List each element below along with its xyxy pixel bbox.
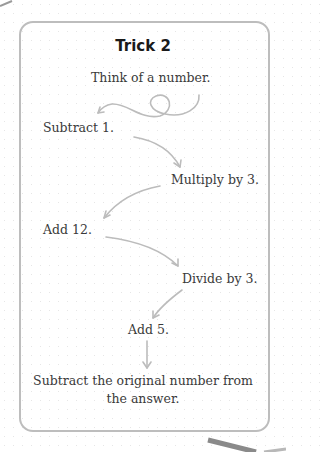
step-subtract-original-line2: the answer. (0, 391, 286, 406)
step-add-five: Add 5. (128, 322, 169, 337)
step-subtract-one: Subtract 1. (43, 120, 114, 135)
step-think-number: Think of a number. (91, 70, 210, 85)
step-add-twelve: Add 12. (43, 222, 92, 237)
card-title: Trick 2 (0, 37, 286, 55)
next-arrow-icon (208, 440, 256, 452)
step-multiply-three: Multiply by 3. (171, 172, 259, 187)
step-subtract-original-line1: Subtract the original number from (0, 373, 286, 388)
step-divide-three: Divide by 3. (182, 271, 257, 286)
prev-arrow-icon (0, 1, 12, 6)
